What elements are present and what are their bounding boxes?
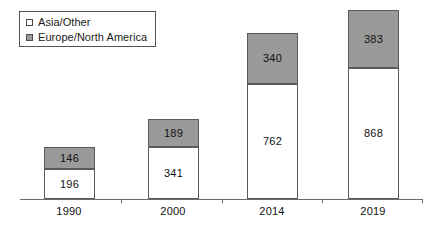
bar-segment-europe-north-america-1990: 146 (44, 147, 95, 169)
x-tick-label-1990: 1990 (29, 205, 109, 217)
bar-segment-asia-other-2019: 868 (348, 68, 399, 199)
x-tick-label-2014: 2014 (232, 205, 312, 217)
x-axis-tick (322, 199, 323, 203)
x-axis-line (20, 199, 422, 200)
bar-segment-asia-other-1990: 196 (44, 169, 95, 199)
x-axis-tick (121, 199, 122, 203)
bar-segment-europe-north-america-2014: 340 (247, 33, 298, 84)
bar-value-label: 868 (364, 128, 383, 139)
stacked-bar-chart: Asia/Other Europe/North America 146 196 … (0, 0, 439, 230)
bar-2000: 189 341 (148, 119, 199, 199)
x-axis-tick (222, 199, 223, 203)
plot-area: 146 196 189 341 340 762 (0, 0, 439, 230)
bar-2014: 340 762 (247, 33, 298, 199)
bar-2019: 383 868 (348, 10, 399, 199)
bar-value-label: 189 (164, 128, 183, 139)
bar-segment-europe-north-america-2000: 189 (148, 119, 199, 147)
bar-value-label: 341 (164, 168, 183, 179)
x-tick-label-2000: 2000 (133, 205, 213, 217)
bar-segment-asia-other-2000: 341 (148, 147, 199, 199)
bar-value-label: 762 (263, 136, 282, 147)
x-axis-tick (422, 199, 423, 203)
bar-value-label: 340 (263, 53, 282, 64)
bar-value-label: 383 (364, 34, 383, 45)
bar-value-label: 146 (60, 153, 79, 164)
bar-1990: 146 196 (44, 147, 95, 199)
bar-segment-europe-north-america-2019: 383 (348, 10, 399, 68)
x-tick-label-2019: 2019 (333, 205, 413, 217)
bar-value-label: 196 (60, 179, 79, 190)
bar-segment-asia-other-2014: 762 (247, 84, 298, 199)
